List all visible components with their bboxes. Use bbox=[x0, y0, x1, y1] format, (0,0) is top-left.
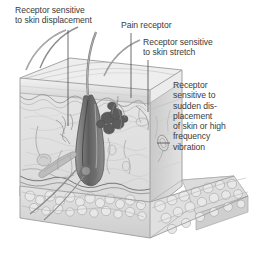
label-pain-receptor: Pain receptor bbox=[121, 20, 171, 30]
label-receptor-skin-displacement: Receptor sensitive to skin displacement bbox=[15, 5, 92, 26]
label-receptor-sudden-displacement-vibration: Receptor sensitive to sudden dis- placem… bbox=[173, 80, 226, 152]
skin-receptor-illustration: Receptor sensitive to skin displacement … bbox=[0, 0, 256, 268]
label-receptor-skin-stretch: Receptor sensitive to skin stretch bbox=[143, 37, 213, 58]
